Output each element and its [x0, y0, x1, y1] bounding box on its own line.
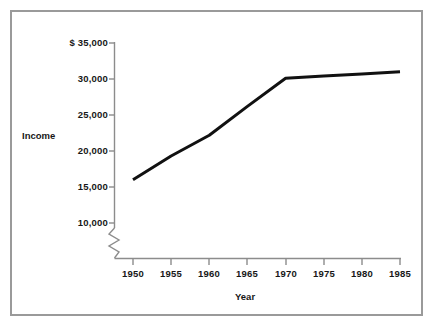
x-tick-label-1975: 1975	[304, 268, 344, 279]
x-axis-ticks	[133, 259, 400, 266]
x-tick-label-1955: 1955	[151, 268, 191, 279]
y-tick-label-20000: 20,000	[44, 145, 108, 156]
y-tick-label-35000: $ 35,000	[44, 37, 108, 48]
line-chart-plot	[0, 0, 437, 331]
y-axis-ticks	[109, 43, 115, 223]
y-tick-label-10000: 10,000	[44, 217, 108, 228]
y-axis-break-zigzag	[109, 228, 119, 258]
x-axis-title: Year	[235, 291, 255, 302]
y-tick-label-25000: 25,000	[44, 109, 108, 120]
x-tick-label-1960: 1960	[189, 268, 229, 279]
y-tick-label-15000: 15,000	[44, 181, 108, 192]
x-tick-label-1985: 1985	[380, 268, 420, 279]
x-tick-label-1970: 1970	[266, 268, 306, 279]
y-tick-label-30000: 30,000	[44, 73, 108, 84]
x-tick-label-1950: 1950	[113, 268, 153, 279]
x-tick-label-1965: 1965	[227, 268, 267, 279]
y-axis-title: Income	[22, 130, 55, 141]
chart-figure: $ 35,000 30,000 25,000 20,000 15,000 10,…	[0, 0, 437, 331]
x-tick-label-1980: 1980	[342, 268, 382, 279]
data-series-income	[133, 72, 400, 180]
